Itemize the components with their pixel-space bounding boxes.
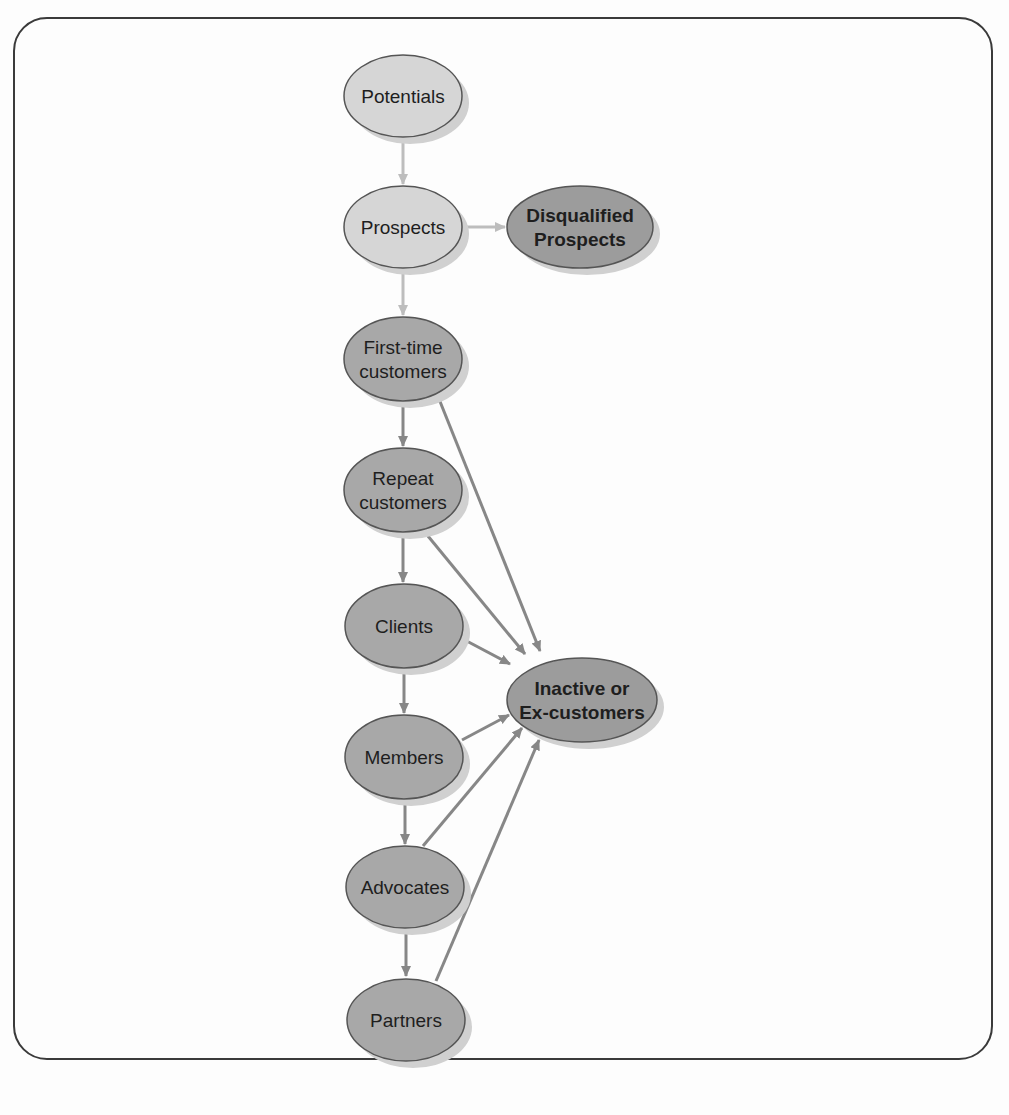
node-label: customers [359, 492, 447, 513]
node-label: Prospects [361, 217, 445, 238]
node-label: customers [359, 361, 447, 382]
node-repeat-customers: Repeatcustomers [344, 448, 469, 539]
node-label: Partners [370, 1010, 442, 1031]
node-clients: Clients [345, 584, 470, 675]
node-ellipse [507, 658, 657, 742]
arrow-members-to-inactive-or-ex-customers [462, 715, 509, 740]
customer-lifecycle-diagram: PotentialsProspectsDisqualifiedProspects… [0, 0, 1009, 1115]
node-ellipse [344, 448, 462, 532]
node-label: Clients [375, 616, 433, 637]
node-label: Disqualified [526, 205, 634, 226]
node-potentials: Potentials [344, 55, 469, 144]
node-label: First-time [363, 337, 442, 358]
node-members: Members [345, 715, 470, 806]
node-advocates: Advocates [346, 846, 471, 935]
node-label: Prospects [534, 229, 626, 250]
node-label: Potentials [361, 86, 444, 107]
node-label: Advocates [361, 877, 450, 898]
node-partners: Partners [347, 979, 472, 1068]
node-ellipse [344, 317, 462, 401]
node-label: Repeat [372, 468, 434, 489]
node-label: Members [364, 747, 443, 768]
node-ellipse [507, 186, 653, 268]
node-prospects: Prospects [344, 186, 469, 275]
node-label: Ex-customers [519, 702, 645, 723]
node-disqualified-prospects: DisqualifiedProspects [507, 186, 660, 275]
node-first-time-customers: First-timecustomers [344, 317, 469, 408]
node-label: Inactive or [534, 678, 630, 699]
node-inactive-or-ex-customers: Inactive orEx-customers [507, 658, 664, 749]
